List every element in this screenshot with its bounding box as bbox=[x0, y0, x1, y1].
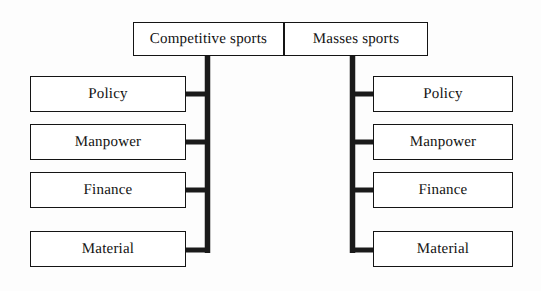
leaf-node-competitive-manpower[interactable]: Manpower bbox=[30, 124, 186, 160]
leaf-node-competitive-material[interactable]: Material bbox=[30, 231, 186, 267]
leaf-label-masses-manpower: Manpower bbox=[410, 135, 477, 150]
leaf-label-competitive-finance: Finance bbox=[84, 183, 133, 198]
leaf-label-competitive-policy: Policy bbox=[88, 87, 128, 102]
leaf-node-masses-finance[interactable]: Finance bbox=[373, 172, 513, 208]
diagram-canvas: Competitive sports Masses sports Policy … bbox=[0, 0, 541, 291]
leaf-label-masses-policy: Policy bbox=[423, 87, 463, 102]
root-label-masses-sports: Masses sports bbox=[313, 32, 399, 47]
leaf-node-competitive-finance[interactable]: Finance bbox=[30, 172, 186, 208]
leaf-label-masses-material: Material bbox=[417, 242, 469, 257]
root-node-masses-sports[interactable]: Masses sports bbox=[284, 22, 428, 56]
leaf-node-competitive-policy[interactable]: Policy bbox=[30, 76, 186, 112]
leaf-label-competitive-material: Material bbox=[82, 242, 134, 257]
leaf-node-masses-manpower[interactable]: Manpower bbox=[373, 124, 513, 160]
leaf-node-masses-policy[interactable]: Policy bbox=[373, 76, 513, 112]
leaf-label-competitive-manpower: Manpower bbox=[75, 135, 142, 150]
root-node-competitive-sports[interactable]: Competitive sports bbox=[133, 22, 284, 56]
leaf-label-masses-finance: Finance bbox=[419, 183, 468, 198]
leaf-node-masses-material[interactable]: Material bbox=[373, 231, 513, 267]
root-label-competitive-sports: Competitive sports bbox=[150, 32, 267, 47]
